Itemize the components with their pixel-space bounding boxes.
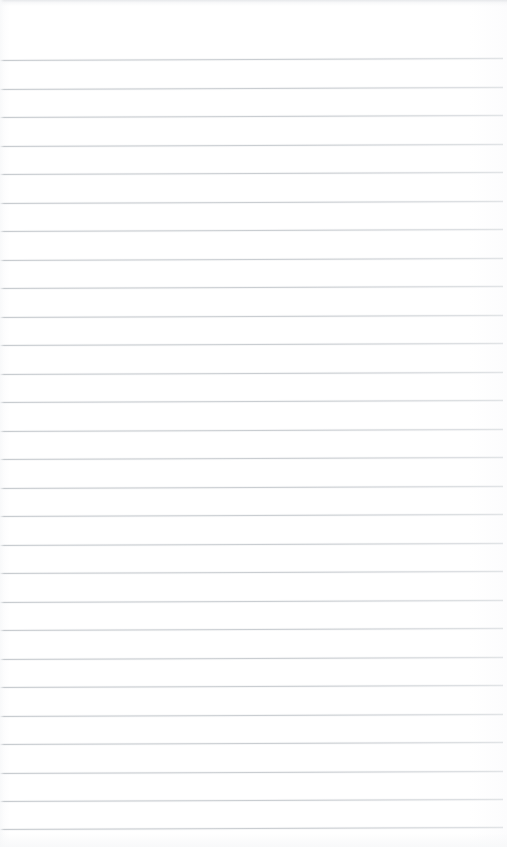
writing-area — [0, 60, 507, 847]
scanned-page — [0, 0, 507, 847]
